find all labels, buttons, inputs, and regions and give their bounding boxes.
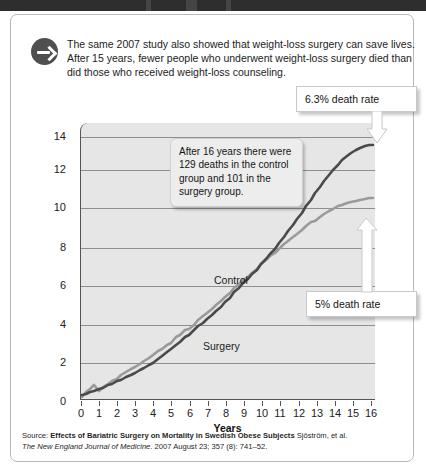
x-tick-label: 2 xyxy=(114,407,120,419)
x-tick-label: 11 xyxy=(274,407,285,419)
annotation-bubble: After 16 years there were 129 deaths in … xyxy=(170,138,303,207)
callout-bottom-stem xyxy=(352,218,380,294)
x-tick-label: 1 xyxy=(96,407,102,419)
x-tick-label: 9 xyxy=(241,407,247,419)
x-tick-label: 6 xyxy=(187,407,193,419)
arrow-right-circle-icon xyxy=(31,38,58,65)
y-tick-label: 0 xyxy=(40,395,66,407)
x-tick-label: 12 xyxy=(293,407,305,419)
y-tick-label: 10 xyxy=(40,201,66,213)
y-tick-label: 6 xyxy=(40,279,66,291)
y-tick-label: 14 xyxy=(40,130,66,142)
callout-surgery-death-rate: 5% death rate xyxy=(306,291,417,317)
y-tick-label: 2 xyxy=(40,356,66,368)
x-tick-label: 5 xyxy=(168,407,174,419)
x-tick-label: 4 xyxy=(150,407,156,419)
y-tick-label: 12 xyxy=(40,163,66,175)
source-citation: Source: Effects of Bariatric Surgery on … xyxy=(22,430,402,452)
source-citation-detail: . 2007 August 23; 357 (8): 741–52. xyxy=(150,442,267,451)
callout-top-stem xyxy=(366,111,392,144)
source-journal: The New England Journal of Medicine xyxy=(22,442,150,451)
y-tick-label: 4 xyxy=(40,318,66,330)
x-tick-label: 10 xyxy=(256,407,268,419)
window-top-bar xyxy=(0,0,426,11)
x-tick-label: 8 xyxy=(223,407,229,419)
callout-control-death-rate: 6.3% death rate xyxy=(296,86,417,112)
intro-callout: The same 2007 study also showed that wei… xyxy=(31,37,421,80)
source-authors: Sjöström, et al. xyxy=(295,431,348,440)
series-label-surgery: Surgery xyxy=(203,340,240,352)
series-label-control: Control xyxy=(214,274,248,286)
source-prefix: Source: xyxy=(22,431,50,440)
x-tick-label: 14 xyxy=(329,407,341,419)
intro-text: The same 2007 study also showed that wei… xyxy=(67,37,415,80)
y-tick-label: 8 xyxy=(40,241,66,253)
x-tick-label: 3 xyxy=(132,407,138,419)
x-tick-label: 16 xyxy=(365,407,377,419)
x-tick-label: 15 xyxy=(347,407,359,419)
x-tick-label: 7 xyxy=(205,407,211,419)
x-tick-label: 0 xyxy=(78,407,84,419)
x-tick-label: 13 xyxy=(311,407,323,419)
source-title: Effects of Bariatric Surgery on Mortalit… xyxy=(50,431,294,440)
